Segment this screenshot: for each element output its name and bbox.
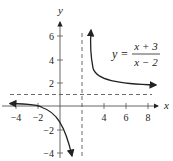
right-branch-curve-upper [91,30,93,68]
svg-text:6: 6 [49,31,54,42]
svg-text:x + 3: x + 3 [133,40,158,52]
left-branch-curve [10,104,42,108]
chart: −4 −2 4 6 8 6 4 2 −2 −4 y x y = x + 3 x … [0,0,173,161]
svg-text:x − 2: x − 2 [133,56,158,68]
x-tick-labels: −4 −2 4 6 8 [11,112,151,123]
svg-text:−2: −2 [33,112,44,123]
x-axis-label: x [163,99,169,111]
equation-label: y = x + 3 x − 2 [111,40,160,68]
svg-text:y =: y = [111,47,128,61]
svg-text:−2: −2 [43,125,54,136]
svg-text:8: 8 [146,112,151,123]
svg-text:6: 6 [124,112,129,123]
svg-text:−4: −4 [11,112,22,123]
svg-text:2: 2 [49,78,54,89]
svg-text:−4: −4 [43,148,54,159]
svg-text:4: 4 [102,112,107,123]
right-branch-curve [93,68,156,85]
y-axis-label: y [57,4,63,16]
svg-text:4: 4 [49,55,54,66]
